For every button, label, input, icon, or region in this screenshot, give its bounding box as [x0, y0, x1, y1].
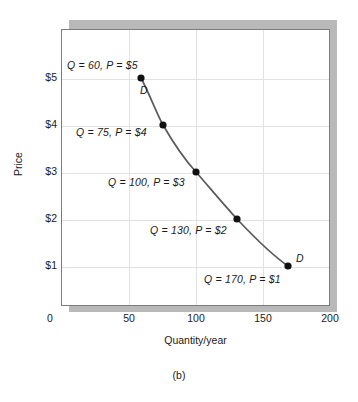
gridline-x-50	[129, 30, 130, 305]
x-tick-100: 100	[176, 312, 216, 324]
y-axis-title: Price	[12, 134, 24, 194]
annotation-q170-p1: Q = 170, P = $1	[204, 273, 281, 285]
y-tick-3: $3	[23, 166, 57, 177]
gridline-y-5	[62, 79, 329, 80]
gridline-x-100	[196, 30, 197, 305]
annotation-q100-p3: Q = 100, P = $3	[108, 176, 185, 188]
annotation-q60-p5: Q = 60, P = $5	[67, 59, 138, 71]
curve-label-d-top: D	[140, 84, 148, 96]
figure-caption: (b)	[0, 369, 358, 381]
gridline-x-150	[263, 30, 264, 305]
gridline-y-2	[62, 220, 329, 221]
gridline-y-3	[62, 173, 329, 174]
annotation-q75-p4: Q = 75, P = $4	[76, 126, 147, 138]
curve-label-d-bottom: D	[296, 252, 304, 264]
gridline-y-1	[62, 267, 329, 268]
annotation-q130-p2: Q = 130, P = $2	[150, 224, 227, 236]
x-tick-50: 50	[109, 312, 149, 324]
x-axis-ticks: 0 50 100 150 200	[61, 312, 330, 326]
y-tick-1: $1	[23, 260, 57, 271]
figure-panel: $5 $4 $3 $2 $1 0 50 100 150 200 Price Qu…	[0, 0, 358, 402]
x-axis-title: Quantity/year	[61, 334, 330, 346]
y-tick-2: $2	[23, 213, 57, 224]
x-tick-200: 200	[310, 312, 350, 324]
x-tick-150: 150	[243, 312, 283, 324]
y-tick-5: $5	[23, 72, 57, 83]
x-tick-0: 0	[30, 312, 70, 324]
y-tick-4: $4	[23, 119, 57, 130]
